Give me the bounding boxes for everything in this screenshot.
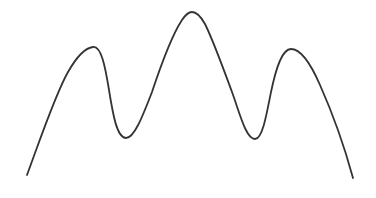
curve-figure: [0, 0, 376, 198]
three-peak-curve: [27, 12, 353, 178]
